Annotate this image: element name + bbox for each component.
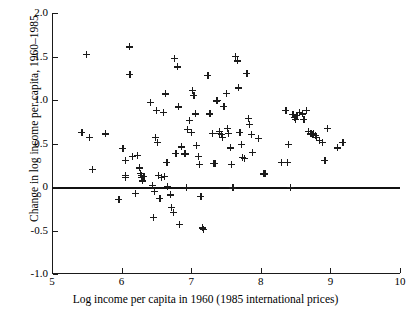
- data-point: [299, 110, 306, 117]
- data-point: [305, 128, 312, 135]
- data-point: [147, 99, 154, 106]
- data-point: [334, 144, 341, 151]
- data-point: [188, 129, 195, 136]
- x-tick-0: [52, 268, 53, 273]
- y-tick-label-6: -1.0: [31, 268, 48, 279]
- scatter-plot-figure: Change in log income per capita, 1960–19…: [0, 0, 411, 315]
- data-point: [278, 159, 285, 166]
- data-point: [303, 107, 310, 114]
- data-point: [246, 121, 253, 128]
- data-point: [316, 137, 323, 144]
- data-point: [154, 139, 161, 146]
- y-tick-3: [53, 144, 58, 145]
- x-axis-title: Log income per capita in 1960 (1985 inte…: [0, 293, 411, 305]
- data-point: [218, 131, 225, 138]
- data-point: [83, 51, 90, 58]
- data-point: [245, 115, 252, 122]
- data-point: [255, 135, 262, 142]
- data-point: [122, 174, 129, 181]
- data-point: [162, 90, 169, 97]
- data-point: [158, 174, 165, 181]
- data-point: [243, 70, 250, 77]
- data-point: [285, 141, 292, 148]
- x-tick-label-4: 9: [328, 276, 334, 287]
- data-point: [321, 157, 328, 164]
- data-point: [210, 160, 217, 167]
- y-axis-tick-labels: 2.01.51.00.50-0.5-1.0: [0, 13, 48, 274]
- y-tick-label-3: 0.5: [34, 138, 48, 149]
- data-point: [284, 159, 291, 166]
- data-point: [178, 143, 185, 150]
- x-tick-5: [400, 268, 401, 273]
- data-point: [78, 129, 85, 136]
- data-point: [168, 204, 175, 211]
- data-point: [122, 157, 129, 164]
- data-point: [89, 166, 96, 173]
- y-tick-label-5: -0.5: [31, 225, 48, 236]
- y-tick-1: [53, 57, 58, 58]
- data-point: [289, 111, 296, 118]
- data-point: [138, 172, 145, 179]
- data-point: [216, 128, 223, 135]
- data-point: [324, 125, 331, 132]
- data-point: [216, 130, 223, 137]
- plot-area: [52, 13, 400, 274]
- x-tick-3: [261, 268, 262, 273]
- y-tick-4: [53, 187, 58, 188]
- data-point: [140, 173, 147, 180]
- data-point: [232, 53, 239, 60]
- data-point: [181, 150, 188, 157]
- data-point: [129, 153, 136, 160]
- data-point: [204, 72, 211, 79]
- data-point: [236, 129, 243, 136]
- x-tick-label-5: 10: [395, 276, 406, 287]
- data-point: [291, 114, 298, 121]
- data-point: [170, 209, 177, 216]
- data-point: [186, 117, 193, 124]
- data-point: [161, 173, 168, 180]
- data-point: [184, 126, 191, 133]
- data-point: [223, 90, 230, 97]
- y-tick-5: [53, 231, 58, 232]
- data-point: [200, 226, 207, 233]
- data-point: [175, 103, 182, 110]
- data-point: [150, 214, 157, 221]
- data-point: [167, 191, 174, 198]
- data-point: [211, 160, 218, 167]
- data-point: [195, 153, 202, 160]
- data-point: [155, 172, 162, 179]
- data-point: [122, 172, 129, 179]
- y-tick-6: [53, 274, 58, 275]
- data-point: [132, 190, 139, 197]
- data-point: [224, 125, 231, 132]
- data-point: [213, 97, 220, 104]
- data-point: [312, 132, 319, 139]
- data-point: [219, 134, 226, 141]
- x-tick-label-0: 5: [49, 276, 55, 287]
- data-point: [339, 139, 346, 146]
- x-tick-label-1: 6: [119, 276, 125, 287]
- data-point: [209, 130, 216, 137]
- data-point: [126, 71, 133, 78]
- data-point: [239, 154, 246, 161]
- data-point: [176, 221, 183, 228]
- data-point: [172, 150, 179, 157]
- x-axis-line: [52, 273, 400, 274]
- data-point: [313, 134, 320, 141]
- data-point: [227, 144, 234, 151]
- data-point: [300, 116, 307, 123]
- data-point: [189, 87, 196, 94]
- data-point: [182, 150, 189, 157]
- data-point: [137, 170, 144, 177]
- data-point: [234, 57, 241, 64]
- data-point: [225, 130, 232, 137]
- data-point: [310, 130, 317, 137]
- data-point: [115, 196, 122, 203]
- x-tick-2: [191, 268, 192, 273]
- x-axis-tick-labels: 5678910: [52, 274, 411, 290]
- data-point: [248, 131, 255, 138]
- data-point: [160, 109, 167, 116]
- y-tick-0: [53, 13, 58, 14]
- data-point: [292, 116, 299, 123]
- data-point: [134, 152, 141, 159]
